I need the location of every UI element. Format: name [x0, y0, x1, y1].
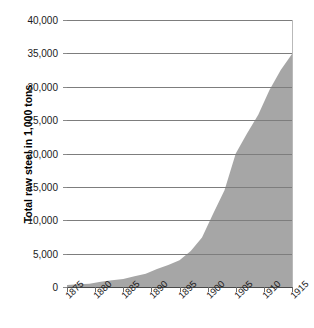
y-axis-tick-label: 35,000: [27, 48, 58, 59]
y-axis-tick-label: 0: [52, 282, 58, 293]
gridline: [67, 187, 292, 188]
gridline: [67, 20, 292, 21]
gridline: [67, 53, 292, 54]
y-axis-tick-label: 40,000: [27, 15, 58, 26]
y-axis-tick-group: 05,00010,00015,00020,00025,00030,00035,0…: [0, 0, 63, 328]
y-axis-tick-label: 20,000: [27, 148, 58, 159]
y-axis-tick-label: 5,000: [33, 248, 58, 259]
y-axis-right-line: [292, 20, 293, 288]
y-axis-tick-label: 10,000: [27, 215, 58, 226]
y-axis-tick-label: 25,000: [27, 115, 58, 126]
gridline: [67, 87, 292, 88]
chart-root: Total raw steel in 1,000 tons 05,00010,0…: [0, 0, 314, 328]
gridline: [67, 154, 292, 155]
gridline: [67, 120, 292, 121]
plot-area: [67, 20, 292, 287]
gridline: [67, 254, 292, 255]
y-axis-tick-label: 15,000: [27, 181, 58, 192]
y-axis-tick-label: 30,000: [27, 81, 58, 92]
gridline: [67, 220, 292, 221]
